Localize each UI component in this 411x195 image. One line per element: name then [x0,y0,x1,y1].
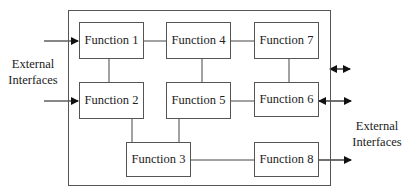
function-7-label: Function 7 [260,33,314,48]
function-3-label: Function 3 [132,152,186,167]
function-7-box: Function 7 [254,22,319,59]
ext-left-line2: Interfaces [2,72,64,88]
function-4-label: Function 4 [172,33,226,48]
function-6-box: Function 6 [254,82,319,117]
function-3-box: Function 3 [126,142,191,177]
function-2-box: Function 2 [79,82,144,119]
function-5-box: Function 5 [166,82,231,119]
function-4-box: Function 4 [166,22,231,59]
function-1-box: Function 1 [79,22,144,59]
external-interfaces-left-label: External Interfaces [2,56,64,88]
function-5-label: Function 5 [172,93,226,108]
function-8-box: Function 8 [254,142,319,177]
function-1-label: Function 1 [85,33,139,48]
function-8-label: Function 8 [260,152,314,167]
ext-right-line1: External [344,118,410,134]
functional-block-diagram: Function 1 Function 2 Function 3 Functio… [0,0,411,195]
ext-right-line2: Interfaces [344,134,410,150]
ext-left-line1: External [2,56,64,72]
external-interfaces-right-label: External Interfaces [344,118,410,150]
function-6-label: Function 6 [260,92,314,107]
function-2-label: Function 2 [85,93,139,108]
